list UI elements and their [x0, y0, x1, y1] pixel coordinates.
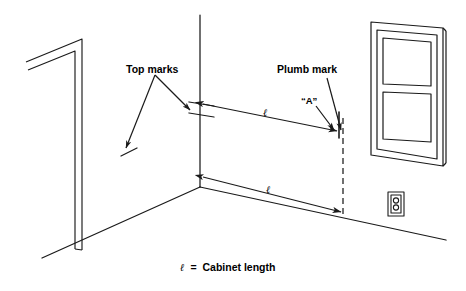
label-a-mark: “A” [301, 96, 317, 106]
caption-text: Cabinet length [202, 261, 275, 273]
label-top-marks: Top marks [126, 64, 178, 75]
figure-caption: ℓ = Cabinet length [180, 262, 275, 273]
door-jamb-base [75, 249, 82, 250]
a-mark-leader [316, 106, 334, 130]
top-marks-ticks [189, 102, 214, 117]
top-mark-tick-lower [189, 113, 214, 117]
line-drawing [0, 0, 466, 291]
door-jamb-inner [28, 51, 75, 249]
electrical-outlet [388, 192, 404, 216]
plumb-mark-leader [327, 78, 341, 130]
window-assembly [371, 22, 446, 166]
window-lower-pane [383, 92, 431, 142]
outlet-receptacle-top [393, 198, 398, 203]
top-marks-leader-tick [121, 148, 137, 156]
door-opening-left-wall [26, 39, 82, 250]
outlet-plate [388, 192, 404, 216]
floor-line-left [42, 187, 200, 258]
top-marks-leader-left [126, 75, 155, 148]
floor-line-right [200, 187, 446, 240]
caption-equals: = [190, 261, 196, 273]
leader-lines [126, 75, 341, 148]
dimension-lower [203, 177, 341, 212]
window-outer-frame [371, 22, 443, 166]
top-marks-leader-right [155, 75, 190, 110]
dimension-label-lower: ℓ [266, 185, 270, 195]
window-upper-pane [383, 38, 431, 86]
caption-symbol: ℓ [180, 261, 185, 273]
figure-canvas: Top marks Plumb mark “A” ℓ ℓ ℓ = Cabinet… [0, 0, 466, 291]
room-shell [42, 15, 446, 258]
left-top-mark-tick [121, 148, 137, 156]
dimension-lower-line [203, 177, 341, 212]
door-jamb-outer [26, 39, 82, 250]
label-plumb-mark: Plumb mark [277, 64, 337, 75]
outlet-receptacle-bottom [393, 205, 398, 210]
dimension-label-upper: ℓ [263, 108, 267, 118]
